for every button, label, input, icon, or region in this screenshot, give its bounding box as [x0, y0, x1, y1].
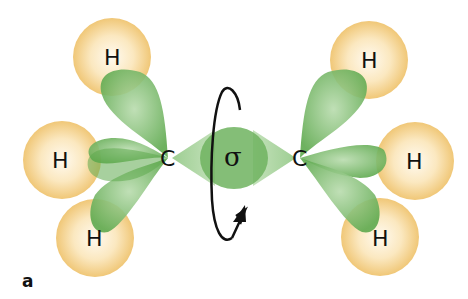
arrowhead-icon — [233, 205, 246, 222]
hydrogen-label-right-top: H — [361, 48, 378, 73]
right-carbon-label: C — [292, 146, 307, 171]
ethane-diagram: σ C C H H H H H H a — [0, 0, 468, 299]
sigma-label: σ — [224, 142, 242, 172]
hydrogen-label-left-bottom: H — [86, 226, 103, 251]
hydrogen-label-right-bottom: H — [372, 226, 389, 251]
hydrogen-label-left-top: H — [104, 45, 121, 70]
hydrogen-label-right-middle: H — [406, 149, 423, 174]
panel-label: a — [22, 271, 33, 291]
orbital-lobe-right-top — [300, 69, 367, 158]
left-carbon-label: C — [160, 146, 175, 171]
hydrogen-label-left-middle: H — [52, 148, 69, 173]
